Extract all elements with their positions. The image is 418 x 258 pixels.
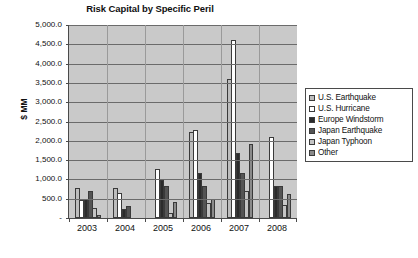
y-tick-label: 2,000.0 — [35, 137, 62, 145]
legend-label: Japan Typhoon — [318, 137, 372, 147]
y-axis-tick — [66, 160, 69, 161]
category-separator — [259, 25, 260, 218]
y-tick-label: 500.0 — [42, 195, 62, 203]
x-axis-label: 2005 — [144, 223, 182, 233]
legend-swatch-icon — [309, 95, 315, 101]
bar — [173, 202, 178, 218]
x-axis-label: 2004 — [106, 223, 144, 233]
y-axis-tick — [66, 102, 69, 103]
y-tick-label: 5,000.0 — [35, 21, 62, 29]
y-axis-tick — [66, 199, 69, 200]
x-axis-label: 2007 — [220, 223, 258, 233]
x-axis-tick — [296, 218, 297, 222]
x-axis-tick — [69, 218, 70, 222]
x-axis-tick — [107, 218, 108, 222]
x-axis-label: 2003 — [68, 223, 106, 233]
legend-label: U.S. Earthquake — [318, 93, 376, 103]
x-axis-label: 2006 — [182, 223, 220, 233]
y-tick-label: 4,500.0 — [35, 40, 62, 48]
x-axis-tick — [145, 218, 146, 222]
legend-item[interactable]: Other — [309, 147, 410, 158]
x-axis-category-labels: 200320042005200620072008 — [68, 223, 296, 243]
legend-item[interactable]: U.S. Hurricane — [309, 103, 410, 114]
y-tick-label: 1,500.0 — [35, 156, 62, 164]
legend-swatch-icon — [309, 128, 315, 134]
legend-item[interactable]: Japan Typhoon — [309, 136, 410, 147]
bar — [249, 144, 254, 218]
bar — [287, 194, 292, 218]
legend-label: Other — [318, 148, 338, 158]
bar — [211, 199, 216, 218]
y-tick-label: 1,000.0 — [35, 175, 62, 183]
legend-swatch-icon — [309, 117, 315, 123]
y-axis-tick — [66, 25, 69, 26]
category-separator — [183, 25, 184, 218]
y-axis-tick — [66, 122, 69, 123]
category-separator — [221, 25, 222, 218]
legend-swatch-icon — [309, 106, 315, 112]
bar — [97, 215, 102, 218]
y-axis-tick — [66, 83, 69, 84]
legend-label: U.S. Hurricane — [318, 104, 370, 114]
category-separator — [145, 25, 146, 218]
x-axis-label: 2008 — [258, 223, 296, 233]
y-tick-label: 3,000.0 — [35, 98, 62, 106]
y-tick-label: 4,000.0 — [35, 60, 62, 68]
legend-item[interactable]: U.S. Earthquake — [309, 92, 410, 103]
legend-item[interactable]: Japan Earthquake — [309, 125, 410, 136]
y-axis-tick — [66, 44, 69, 45]
y-tick-label: 3,500.0 — [35, 79, 62, 87]
legend: U.S. EarthquakeU.S. HurricaneEurope Wind… — [305, 88, 413, 162]
y-axis-tick — [66, 64, 69, 65]
x-axis-tick — [259, 218, 260, 222]
y-tick-label: - — [59, 214, 62, 222]
y-axis-tick-labels: 5,000.04,500.04,000.03,500.03,000.02,500… — [10, 0, 62, 258]
legend-swatch-icon — [309, 139, 315, 145]
y-tick-label: 2,500.0 — [35, 118, 62, 126]
plot-area — [68, 25, 297, 219]
x-axis-tick — [183, 218, 184, 222]
legend-item[interactable]: Europe Windstorm — [309, 114, 410, 125]
legend-swatch-icon — [309, 150, 315, 156]
x-axis-tick — [221, 218, 222, 222]
legend-label: Japan Earthquake — [318, 126, 382, 136]
legend-label: Europe Windstorm — [318, 115, 383, 125]
category-separator — [107, 25, 108, 218]
y-axis-tick — [66, 179, 69, 180]
y-axis-tick — [66, 141, 69, 142]
chart-container: Risk Capital by Specific Peril $ MM 5,00… — [0, 0, 418, 258]
bar — [126, 206, 131, 218]
